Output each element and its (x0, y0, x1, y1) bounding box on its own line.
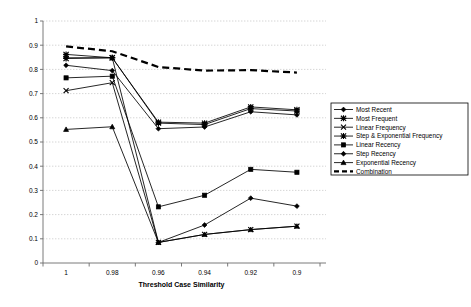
series-line (66, 83, 297, 243)
y-tick-label: 0.4 (29, 163, 38, 170)
y-tick-label: 0.6 (29, 114, 38, 121)
y-tick-label: 0 (34, 259, 38, 266)
x-tick-label: 0.98 (106, 269, 119, 276)
data-point-marker (341, 143, 345, 147)
chart-screenshot: 00.10.20.30.40.50.60.70.80.91 10.980.960… (0, 0, 471, 307)
series-combination (66, 46, 297, 72)
legend-label: Linear Recency (356, 141, 401, 149)
data-point-marker (64, 76, 68, 80)
legend-label: Most Recent (356, 106, 392, 113)
series-most-recent (64, 63, 300, 131)
data-point-marker (249, 167, 253, 171)
data-point-marker (155, 120, 161, 126)
data-series-group (63, 46, 300, 245)
series-linear-frequency (64, 80, 300, 245)
legend-label: Most Frequent (356, 115, 397, 123)
series-line (66, 46, 297, 72)
y-tick-label: 0.3 (29, 187, 38, 194)
data-point-marker (202, 193, 206, 197)
x-axis-ticks (43, 263, 320, 267)
data-point-marker (295, 170, 299, 174)
series-step-exponential-frequency (63, 55, 300, 128)
series-line (66, 127, 297, 243)
series-linear-recency (64, 74, 299, 209)
y-tick-label: 0.7 (29, 90, 38, 97)
x-tick-label: 0.9 (292, 269, 301, 276)
data-point-marker (156, 205, 160, 209)
data-point-marker (294, 108, 300, 114)
data-point-marker (202, 223, 207, 228)
data-point-marker (341, 115, 347, 121)
legend-label: Step & Exponential Frequency (356, 132, 443, 140)
chart-svg: 00.10.20.30.40.50.60.70.80.91 10.980.960… (0, 0, 471, 307)
legend-label: Exponential Recency (356, 159, 417, 167)
y-tick-label: 1 (34, 17, 38, 24)
series-line (66, 76, 297, 207)
data-point-marker (202, 122, 208, 128)
data-point-marker (64, 63, 69, 68)
y-tick-label: 0.9 (29, 42, 38, 49)
y-tick-label: 0.5 (29, 138, 38, 145)
x-axis-tick-labels: 10.980.960.940.920.9 (64, 269, 302, 276)
x-tick-label: 1 (64, 269, 68, 276)
legend-label: Combination (356, 168, 392, 175)
series-most-frequent (63, 51, 300, 126)
series-line (66, 58, 297, 125)
data-point-marker (248, 106, 254, 112)
data-point-marker (110, 74, 114, 78)
y-axis-tick-labels: 00.10.20.30.40.50.60.70.80.91 (29, 17, 38, 266)
x-tick-label: 0.96 (152, 269, 165, 276)
y-tick-label: 0.8 (29, 66, 38, 73)
data-point-marker (341, 133, 347, 139)
data-point-marker (248, 196, 253, 201)
line-chart: 00.10.20.30.40.50.60.70.80.91 10.980.960… (0, 0, 471, 307)
series-step-recency (64, 55, 300, 244)
y-tick-label: 0.1 (29, 235, 38, 242)
gridlines (43, 21, 326, 239)
legend-label: Step Recency (356, 150, 397, 158)
legend-label: Linear Frequency (356, 124, 407, 132)
y-tick-label: 0.2 (29, 211, 38, 218)
chart-legend[interactable]: Most RecentMost FrequentLinear Frequency… (331, 103, 468, 175)
data-point-marker (295, 204, 300, 209)
x-tick-label: 0.94 (198, 269, 211, 276)
x-axis-title: Threshold Case Similarity (139, 281, 225, 289)
x-tick-label: 0.92 (244, 269, 257, 276)
series-line (66, 65, 297, 128)
